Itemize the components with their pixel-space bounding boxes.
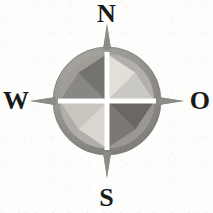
- spike-south-tip-icon: [103, 152, 111, 178]
- label-south: S: [0, 185, 213, 211]
- compass-rose-graphic: [0, 0, 213, 213]
- quadrant-bottom-right: [107, 101, 154, 148]
- compass-rose-figure: N W O S: [0, 0, 213, 213]
- spike-west-tip-icon: [30, 97, 56, 105]
- quadrant-top-right: [107, 54, 154, 101]
- quadrant-top-left: [60, 54, 107, 101]
- quadrant-bottom-left: [60, 101, 107, 148]
- label-east: O: [190, 88, 210, 114]
- spike-east-tip-icon: [158, 97, 184, 105]
- label-west: W: [3, 88, 29, 114]
- label-north: N: [0, 1, 213, 27]
- cross-horizontal-bar: [58, 99, 156, 104]
